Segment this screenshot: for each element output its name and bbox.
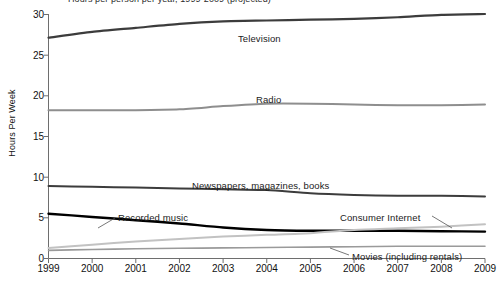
leader-line — [330, 248, 349, 255]
series-label: Consumer Internet — [340, 212, 420, 223]
x-tick-label: 2003 — [201, 264, 245, 274]
x-tick-label: 2008 — [419, 264, 463, 274]
x-tick-label: 2001 — [114, 264, 158, 274]
x-tick-label: 2006 — [332, 264, 376, 274]
y-axis-ticks — [44, 15, 49, 259]
series-line-consumer-internet — [49, 224, 486, 248]
x-tick-label: 2009 — [463, 264, 501, 274]
x-tick-label: 2002 — [157, 264, 201, 274]
series-label: Television — [238, 33, 281, 44]
x-tick-label: 1999 — [27, 264, 71, 274]
x-tick-label: 2005 — [288, 264, 332, 274]
x-tick-label: 2007 — [376, 264, 420, 274]
series-label: Newspapers, magazines, books — [192, 180, 329, 191]
x-tick-label: 2004 — [245, 264, 289, 274]
series-label: Radio — [256, 94, 281, 105]
series-label: Movies (including rentals) — [352, 251, 462, 262]
x-tick-label: 2000 — [70, 264, 114, 274]
series-line-movies-including-rentals — [49, 246, 486, 250]
series-label: Recorded music — [118, 212, 188, 223]
leader-line — [98, 218, 115, 228]
